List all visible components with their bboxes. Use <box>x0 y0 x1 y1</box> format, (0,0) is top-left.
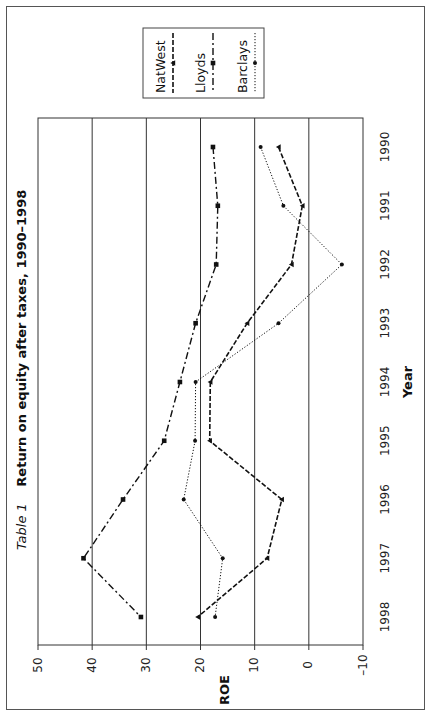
legend: NatWestLloydsBarclays <box>143 28 264 98</box>
series-barclays <box>182 145 344 619</box>
svg-text:30: 30 <box>139 657 153 672</box>
circle-marker <box>213 615 217 619</box>
triangle-marker <box>195 614 200 620</box>
svg-text:1990: 1990 <box>378 132 392 163</box>
svg-text:1991: 1991 <box>378 190 392 221</box>
square-marker <box>178 380 183 385</box>
roe-tick-label: 40 <box>85 657 99 672</box>
year-axis-labels: 199019911992199319941995199619971998 <box>378 132 392 633</box>
svg-text:20: 20 <box>193 657 207 672</box>
svg-text:1994: 1994 <box>378 367 392 398</box>
roe-line-chart: Table 1 Return on equity after taxes, 19… <box>0 0 429 714</box>
svg-text:0: 0 <box>301 661 315 669</box>
square-marker <box>121 497 126 502</box>
title-prefix: Table 1 <box>14 503 29 550</box>
series-line <box>184 147 342 617</box>
year-tick-label: 1991 <box>378 190 392 221</box>
circle-marker <box>182 498 186 502</box>
roe-tick-label: 10 <box>247 657 261 672</box>
series-line <box>84 147 218 617</box>
year-tick-label: 1993 <box>378 308 392 339</box>
svg-text:10: 10 <box>247 657 261 672</box>
svg-text:50: 50 <box>31 657 45 672</box>
square-marker <box>216 203 221 208</box>
circle-marker <box>194 380 198 384</box>
svg-text:1993: 1993 <box>378 308 392 339</box>
square-marker <box>211 145 216 150</box>
circle-marker <box>340 263 344 267</box>
year-tick-label: 1995 <box>378 425 392 456</box>
roe-tick-label: 20 <box>193 657 207 672</box>
svg-text:40: 40 <box>85 657 99 672</box>
legend-label: Barclays <box>235 40 250 93</box>
svg-text:Year: Year <box>400 365 415 399</box>
circle-marker <box>281 204 285 208</box>
roe-axis-title: ROE <box>217 675 232 705</box>
svg-text:1995: 1995 <box>378 425 392 456</box>
circle-marker <box>259 145 263 149</box>
triangle-marker <box>276 144 281 150</box>
circle-marker <box>277 321 281 325</box>
year-tick-label: 1992 <box>378 249 392 280</box>
svg-text:1992: 1992 <box>378 249 392 280</box>
year-axis-title: Year <box>400 365 415 399</box>
series-lines <box>81 144 344 620</box>
square-marker <box>162 438 167 443</box>
square-marker <box>211 61 216 66</box>
year-tick-label: 1997 <box>378 543 392 574</box>
legend-label: NatWest <box>153 40 168 93</box>
roe-tick-label: 30 <box>139 657 153 672</box>
svg-text:1996: 1996 <box>378 484 392 515</box>
series-line <box>198 147 302 617</box>
svg-text:–10: –10 <box>356 654 370 675</box>
title-text: Return on equity after taxes, 1990–1998 <box>14 190 29 487</box>
year-tick-label: 1998 <box>378 602 392 633</box>
square-marker <box>214 262 219 267</box>
roe-axis-ticks: 50403020100–10 <box>31 645 370 676</box>
svg-text:ROE: ROE <box>217 675 232 705</box>
circle-marker <box>221 556 225 560</box>
svg-text:1997: 1997 <box>378 543 392 574</box>
gridlines <box>92 118 309 645</box>
year-tick-label: 1990 <box>378 132 392 163</box>
series-natwest <box>195 144 304 620</box>
year-tick-label: 1996 <box>378 484 392 515</box>
circle-marker <box>193 439 197 443</box>
chart-title: Table 1 Return on equity after taxes, 19… <box>14 190 29 550</box>
square-marker <box>139 615 144 620</box>
svg-text:1998: 1998 <box>378 602 392 633</box>
series-lloyds <box>81 145 220 620</box>
roe-tick-label: –10 <box>356 654 370 675</box>
legend-label: Lloyds <box>193 53 208 93</box>
square-marker <box>193 321 198 326</box>
year-tick-label: 1994 <box>378 367 392 398</box>
svg-text:Table 1 Return on equity: Table 1 Return on equity after taxes, 19… <box>14 190 29 550</box>
circle-marker <box>253 61 257 65</box>
roe-tick-label: 50 <box>31 657 45 672</box>
square-marker <box>81 556 86 561</box>
plot-area: 50403020100–10 1990199119921993199419951… <box>31 118 392 676</box>
roe-tick-label: 0 <box>301 661 315 669</box>
